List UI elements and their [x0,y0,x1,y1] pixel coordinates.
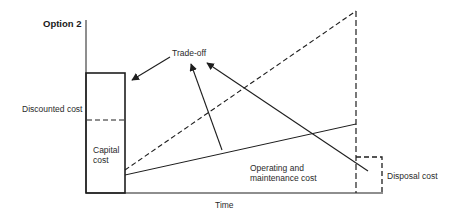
om-cost-label-2: maintenance cost [250,173,317,183]
arrow-from-disposal [207,63,368,171]
diagram-title: Option 2 [43,18,82,29]
capital-cost-box [86,73,125,193]
trade-off-label: Trade-off [172,48,206,58]
x-axis-label: Time [215,200,234,210]
cumulative-dashed-line [125,11,356,170]
y-axis-label: Discounted cost [22,104,82,114]
om-cost-line [125,124,356,175]
capital-cost-label-2: cost [93,155,109,165]
disposal-cost-box [356,157,382,193]
disposal-cost-label: Disposal cost [387,171,438,181]
arrow-from-om [191,64,222,150]
om-cost-label-1: Operating and [250,163,304,173]
arrow-to-capital [132,57,170,80]
capital-cost-label-1: Capital [93,145,119,155]
